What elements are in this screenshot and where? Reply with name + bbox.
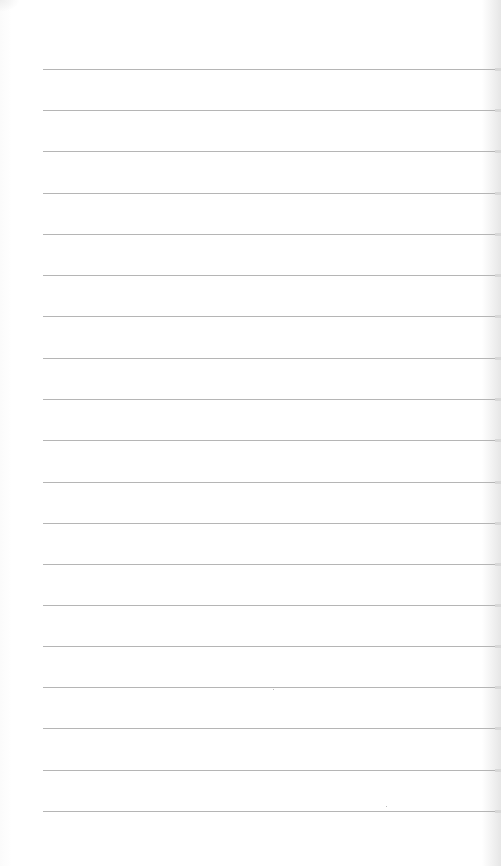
edge-shadow-tick [495, 274, 501, 277]
ruled-line [43, 646, 497, 647]
ruled-line [43, 275, 497, 276]
edge-shadow-tick [495, 109, 501, 112]
edge-shadow-tick [495, 522, 501, 525]
edge-shadow-tick [495, 481, 501, 484]
edge-shadow-tick [495, 604, 501, 607]
edge-shadow-tick [495, 192, 501, 195]
ruled-line [43, 193, 497, 194]
ruled-line [43, 440, 497, 441]
edge-shadow-tick [495, 357, 501, 360]
ruled-line [43, 687, 497, 688]
ruled-line [43, 811, 497, 812]
edge-shadow-tick [495, 398, 501, 401]
ruled-line [43, 728, 497, 729]
edge-shadow-tick [495, 439, 501, 442]
ruled-line [43, 110, 497, 111]
ruled-line [43, 316, 497, 317]
edge-shadow-tick [495, 645, 501, 648]
ruled-line [43, 564, 497, 565]
edge-shadow-tick [495, 769, 501, 772]
ruled-line [43, 605, 497, 606]
edge-shadow-tick [495, 150, 501, 153]
ruled-line [43, 358, 497, 359]
ruled-line [43, 482, 497, 483]
edge-shadow-tick [495, 563, 501, 566]
ruled-line [43, 69, 497, 70]
ruled-line [43, 523, 497, 524]
ruled-line [43, 151, 497, 152]
paper-speck [273, 689, 274, 690]
edge-shadow-tick [495, 68, 501, 71]
lined-paper [0, 0, 501, 866]
edge-shadow-tick [495, 233, 501, 236]
edge-shadow-tick [495, 810, 501, 813]
ruled-line [43, 399, 497, 400]
edge-shadow-tick [495, 315, 501, 318]
ruled-line [43, 770, 497, 771]
corner-shadow [0, 0, 20, 12]
paper-speck [386, 806, 387, 807]
edge-shadow-tick [495, 686, 501, 689]
ruled-line [43, 234, 497, 235]
edge-shadow-tick [495, 727, 501, 730]
